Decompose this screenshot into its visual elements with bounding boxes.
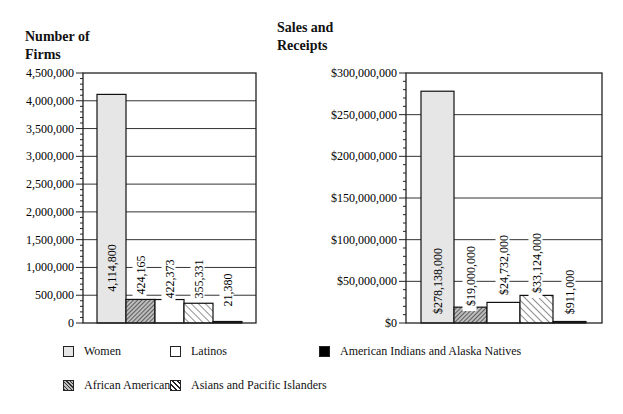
legend-item-women: Women [63, 344, 121, 359]
svg-text:355,331: 355,331 [192, 260, 206, 299]
legend-label: African Americans [84, 378, 175, 393]
y-tick-label: 3,500,000 [26, 122, 74, 136]
legend-swatch [170, 346, 181, 357]
value-label: 422,373 [162, 256, 177, 302]
value-label: 355,331 [191, 256, 206, 302]
y-tick-label: $150,000,000 [331, 191, 397, 205]
y-tick-label: 2,000,000 [26, 205, 74, 219]
legend-label: Women [84, 344, 121, 359]
value-label: $33,124,000 [529, 228, 544, 298]
sales-bar-chart: $0$50,000,000$100,000,000$150,000,000$20… [331, 66, 602, 330]
legend-swatch [63, 346, 74, 357]
legend-swatch [63, 380, 74, 391]
svg-text:21,380: 21,380 [221, 274, 235, 307]
svg-text:422,373: 422,373 [163, 260, 177, 299]
value-label: $911,000 [562, 266, 577, 318]
y-tick-label: 1,500,000 [26, 233, 74, 247]
value-label: 424,165 [133, 252, 148, 298]
y-tick-label: $250,000,000 [331, 108, 397, 122]
y-tick-label: 3,000,000 [26, 149, 74, 163]
svg-text:$33,124,000: $33,124,000 [530, 233, 544, 293]
y-tick-label: 500,000 [35, 288, 74, 302]
y-tick-label: $50,000,000 [337, 274, 397, 288]
y-tick-label: $0 [385, 316, 397, 330]
y-tick-label: 1,000,000 [26, 260, 74, 274]
svg-text:$19,000,000: $19,000,000 [464, 246, 478, 306]
bar-latinos [155, 300, 184, 323]
legend-swatch [319, 346, 330, 357]
bar-african [126, 299, 155, 323]
svg-text:424,165: 424,165 [134, 256, 148, 295]
bar-asian [184, 303, 213, 323]
y-tick-label: 4,000,000 [26, 94, 74, 108]
svg-text:4,114,800: 4,114,800 [105, 244, 119, 292]
legend-item-african: African Americans [63, 378, 175, 393]
legend-label: Asians and Pacific Islanders [191, 378, 327, 393]
bar-asian [520, 295, 553, 323]
legend-swatch [170, 380, 181, 391]
legend-item-latinos: Latinos [170, 344, 227, 359]
value-label: $19,000,000 [463, 241, 478, 311]
legend-label: American Indians and Alaska Natives [340, 344, 521, 359]
value-label: $24,732,000 [496, 230, 511, 300]
value-label: $278,138,000 [431, 248, 445, 314]
svg-text:$24,732,000: $24,732,000 [497, 235, 511, 295]
y-tick-label: 0 [68, 316, 74, 330]
svg-text:$911,000: $911,000 [563, 270, 577, 315]
svg-text:$278,138,000: $278,138,000 [431, 248, 445, 314]
y-tick-label: 4,500,000 [26, 66, 74, 80]
legend-item-natives: American Indians and Alaska Natives [319, 344, 521, 359]
y-tick-label: $300,000,000 [331, 66, 397, 80]
value-label: 21,380 [220, 270, 235, 310]
y-tick-label: 2,500,000 [26, 177, 74, 191]
firms-bar-chart: 0500,0001,000,0001,500,0002,000,0002,500… [26, 66, 256, 330]
bar-latinos [487, 302, 520, 323]
value-label: 4,114,800 [105, 244, 119, 292]
legend-item-asian: Asians and Pacific Islanders [170, 378, 327, 393]
y-tick-label: $200,000,000 [331, 149, 397, 163]
legend-label: Latinos [191, 344, 227, 359]
y-tick-label: $100,000,000 [331, 233, 397, 247]
